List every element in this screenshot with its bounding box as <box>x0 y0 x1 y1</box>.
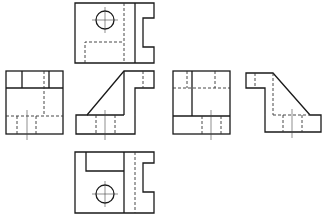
orthographic-drawing <box>0 0 326 219</box>
top-view <box>75 3 154 63</box>
left-view <box>6 71 63 140</box>
front-view <box>76 71 154 140</box>
bottom-view <box>75 152 154 213</box>
right-view <box>173 71 230 140</box>
rear-view <box>246 73 321 138</box>
